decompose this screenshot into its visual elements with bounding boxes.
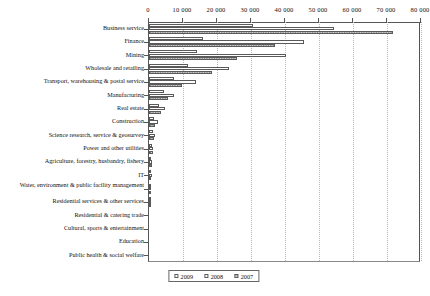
category-label: Agriculture, forestry, husbandry, fisher… (45, 158, 144, 165)
category-label: Cultural, sports & entertainment (64, 225, 144, 232)
category-label: Mining (126, 52, 144, 59)
x-axis-tick-label: 40 000 (274, 6, 293, 13)
category-tick (144, 162, 148, 163)
bar-2007 (149, 164, 152, 167)
category-tick (144, 109, 148, 110)
bar-2007 (149, 44, 275, 47)
category-label: Finance (124, 38, 144, 45)
category-tick (144, 69, 148, 70)
category-label: Science research, service & geosurvey (49, 132, 144, 139)
x-axis-tick-label: 60 000 (342, 6, 361, 13)
gridline (353, 22, 354, 261)
bar-2007 (149, 71, 212, 74)
bar-2007 (149, 191, 151, 194)
legend-swatch-icon (234, 274, 238, 278)
bar-2007 (149, 111, 161, 114)
bar-group (149, 50, 286, 61)
bar-group (149, 37, 304, 48)
x-axis-tick-label: 30 000 (240, 6, 259, 13)
bar-group (149, 170, 152, 181)
bar-2007 (149, 57, 237, 60)
bar-group (149, 64, 229, 75)
legend-item-2008[interactable]: 2008 (204, 273, 223, 280)
legend-label: 2007 (241, 273, 253, 280)
bar-group (149, 157, 152, 168)
x-axis-tick-label: 20 000 (206, 6, 225, 13)
chart-legend: 200920082007 (168, 270, 259, 282)
category-label: Transport, warehousing & postal service (44, 78, 144, 85)
bar-group (149, 184, 151, 195)
bar-group (149, 197, 151, 208)
bar-group (149, 144, 153, 155)
category-tick (144, 175, 148, 176)
category-label: Public health & social welfare (69, 252, 144, 259)
legend-label: 2008 (211, 273, 223, 280)
x-axis-tick-label: 0 (146, 6, 149, 13)
x-axis-tick-label: 10 000 (172, 6, 191, 13)
bar-group (149, 130, 155, 141)
category-tick (144, 29, 148, 30)
category-label: Water, environment & public facility man… (14, 182, 144, 189)
category-label: Education (119, 238, 144, 245)
bar-group (149, 77, 196, 88)
gridline (387, 22, 388, 261)
category-tick (144, 42, 148, 43)
category-tick (144, 55, 148, 56)
category-tick (144, 255, 148, 256)
bar-group (149, 104, 165, 115)
category-tick (144, 189, 148, 190)
category-label: Manufacturing (107, 92, 144, 99)
bar-2007 (149, 97, 168, 100)
legend-label: 2009 (181, 273, 193, 280)
category-tick (144, 149, 148, 150)
legend-swatch-icon (174, 274, 178, 278)
x-axis-tick-label: 80 000 (410, 6, 429, 13)
category-tick (144, 122, 148, 123)
category-label: Business service (103, 25, 144, 32)
category-label: Residential services & other services (53, 198, 144, 205)
bar-2007 (149, 31, 393, 34)
gridline (319, 22, 320, 261)
category-tick (144, 135, 148, 136)
category-label: Power and other utilities (83, 145, 144, 152)
bar-2007 (149, 137, 154, 140)
bar-group (149, 117, 158, 128)
category-label: IT (138, 172, 144, 179)
legend-swatch-icon (204, 274, 208, 278)
category-label: Wholesale and retailing (85, 65, 144, 72)
bar-2007 (149, 124, 155, 127)
x-axis-tick-label: 50 000 (308, 6, 327, 13)
category-tick (144, 95, 148, 96)
bar-2007 (149, 177, 151, 180)
bar-2007 (149, 204, 151, 207)
bar-group (149, 90, 174, 101)
category-tick (144, 229, 148, 230)
legend-item-2009[interactable]: 2009 (174, 273, 193, 280)
category-tick (144, 82, 148, 83)
category-label: Residential & catering trade (74, 212, 144, 219)
plot-area (148, 22, 420, 262)
bar-2007 (149, 151, 153, 154)
bar-2007 (149, 84, 182, 87)
legend-item-2007[interactable]: 2007 (234, 273, 253, 280)
category-tick (144, 202, 148, 203)
category-label: Real estate (117, 105, 144, 112)
category-tick (144, 242, 148, 243)
category-label: Construction (112, 118, 144, 125)
gridline (421, 22, 422, 261)
category-tick (144, 215, 148, 216)
x-axis-tick-label: 70 000 (376, 6, 395, 13)
bar-group (149, 24, 393, 35)
